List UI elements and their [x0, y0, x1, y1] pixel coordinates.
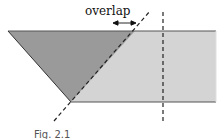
figure-caption: Fig. 2.1 [34, 130, 70, 139]
overlap-label: overlap [85, 4, 131, 18]
overlap-double-arrow-icon [113, 21, 136, 25]
overlap-diagram: overlap [0, 0, 223, 139]
